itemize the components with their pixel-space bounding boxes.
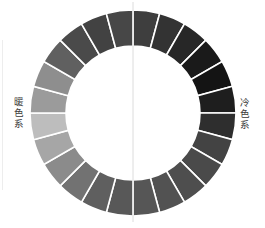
left-divider-line: [2, 40, 3, 190]
color-wheel-diagram: 暖色系 冷色系: [0, 0, 265, 228]
color-ring: [0, 0, 265, 228]
cool-colors-label: 冷色系: [239, 97, 250, 130]
warm-colors-label: 暖色系: [13, 96, 24, 129]
